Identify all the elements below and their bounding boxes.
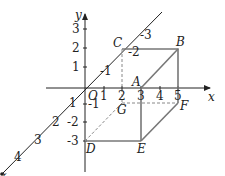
point-A-label: A: [131, 75, 141, 89]
x-tick-2: 2: [118, 89, 126, 103]
y-tick-neg3: -3: [67, 134, 79, 148]
z-tick-2: 2: [52, 115, 60, 129]
z-tick-3: 3: [34, 133, 42, 147]
point-C-label: C: [113, 36, 122, 50]
z-tick-neg3: -3: [140, 28, 152, 42]
point-D-label: D: [85, 142, 96, 156]
edge-E-F: [141, 103, 178, 141]
point-F-label: F: [179, 99, 189, 113]
rectangular-box: [85, 49, 178, 141]
diagram-canvas: x y z O 1 2 3 4 5 3 2 1 -1 -2 -3 -1 -2 -…: [0, 0, 225, 176]
y-tick-3: 3: [72, 22, 80, 36]
point-B-label: B: [175, 35, 185, 49]
point-E-label: E: [136, 142, 146, 156]
z-tick-1: 1: [69, 96, 77, 110]
x-tick-4: 4: [156, 89, 164, 103]
z-axis-label: z: [0, 169, 7, 176]
z-tick-neg1: -1: [100, 64, 112, 78]
y-tick-neg2: -2: [67, 115, 79, 129]
x-tick-3: 3: [137, 89, 145, 103]
x-tick-1: 1: [100, 89, 108, 103]
z-tick-neg2: -2: [128, 45, 140, 59]
coordinate-diagram: x y z O 1 2 3 4 5 3 2 1 -1 -2 -3 -1 -2 -…: [0, 0, 225, 176]
y-axis-label: y: [74, 8, 82, 22]
point-G-label: G: [117, 103, 127, 117]
z-tick-4: 4: [14, 150, 22, 164]
y-tick-neg1: -1: [88, 97, 100, 111]
x-axis-label: x: [208, 90, 215, 104]
y-tick-2: 2: [72, 41, 80, 55]
y-tick-1: 1: [72, 60, 80, 74]
edge-A-B: [141, 49, 178, 88]
